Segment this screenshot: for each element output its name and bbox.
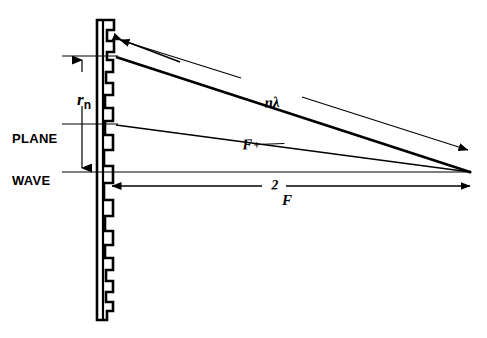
optical-path-plus-sign: + xyxy=(253,139,260,152)
optical-path-term-F: F xyxy=(242,136,253,153)
zone-plate xyxy=(97,20,114,320)
zone-radius-symbol: r xyxy=(77,90,84,109)
zone-radius-label: rn xyxy=(60,73,91,131)
optical-path-formula: F+ nλ 2 xyxy=(224,46,288,243)
ray-upper-zone xyxy=(116,57,470,172)
plane-wave-label-line2: WAVE xyxy=(12,174,58,188)
zone-plate-profile xyxy=(97,20,114,320)
optical-path-denominator: 2 xyxy=(263,177,286,193)
focal-point xyxy=(468,170,471,173)
zone-pointer-arrow xyxy=(122,40,180,62)
ray-inner-zone xyxy=(116,125,470,172)
fraction-bar xyxy=(262,143,285,145)
plane-wave-label-line1: PLANE xyxy=(12,132,58,146)
zone-radius-subscript: n xyxy=(84,98,91,112)
plane-wave-label: PLANE WAVE xyxy=(12,104,58,216)
optical-path-arrow-right-segment xyxy=(302,97,468,150)
zone-plate-figure: PLANE WAVE rn F F+ nλ 2 xyxy=(0,0,487,338)
optical-path-numerator: nλ xyxy=(261,95,284,111)
